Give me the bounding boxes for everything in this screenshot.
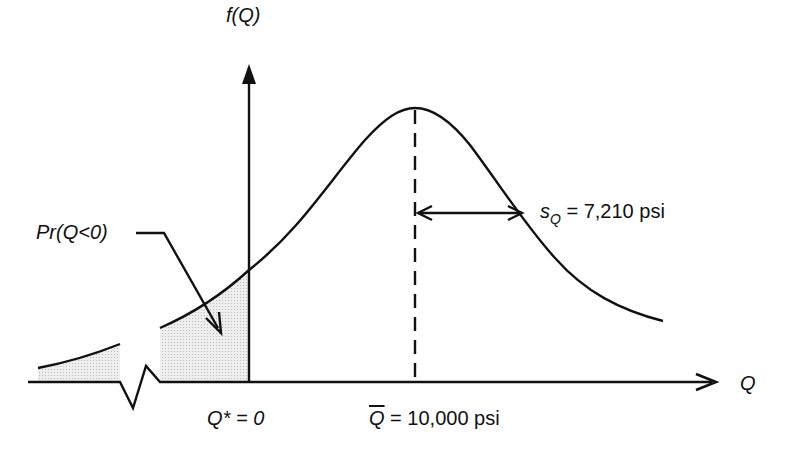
y-axis-label: f(Q) [226, 4, 260, 27]
mean-label: Q = 10,000 psi [369, 407, 500, 430]
y-axis-arrow-icon [242, 64, 256, 84]
mean-symbol: Q [369, 407, 385, 429]
shaded-tail-right [160, 270, 249, 382]
distribution-diagram [0, 0, 786, 466]
x-axis [28, 366, 712, 408]
origin-symbol: Q* [207, 407, 230, 429]
origin-value: = 0 [230, 407, 264, 429]
std-dev-label: sQ = 7,210 psi [540, 200, 665, 223]
callout-label: Pr(Q<0) [36, 221, 108, 244]
x-axis-label: Q [740, 372, 756, 395]
mean-value: = 10,000 psi [385, 407, 500, 429]
std-dev-subscript: Q [550, 211, 561, 227]
std-dev-value: = 7,210 psi [561, 200, 665, 222]
std-dev-symbol: s [540, 200, 550, 222]
origin-label: Q* = 0 [207, 407, 264, 430]
